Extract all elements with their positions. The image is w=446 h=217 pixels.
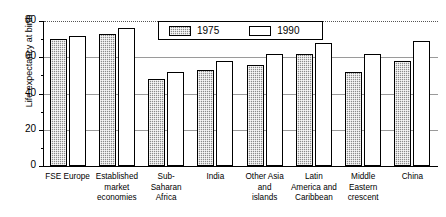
chart-legend: 1975 1990 — [158, 21, 323, 40]
y-axis-label-0: 0 — [8, 160, 36, 170]
x-axis-label: FSE Europe — [43, 172, 92, 204]
bar-group — [191, 21, 240, 166]
x-axis-label-line: Established — [93, 172, 140, 183]
bar-1975 — [296, 54, 313, 166]
y-axis-label-20: 20 — [8, 124, 36, 134]
bar-1990 — [167, 72, 184, 166]
y-axis-label-80: 80 — [8, 15, 36, 25]
bar-group — [339, 21, 388, 166]
bar-1975 — [148, 79, 165, 166]
x-axis-label-line: islands — [241, 193, 288, 204]
bar-1990 — [118, 28, 135, 166]
bar-group — [142, 21, 191, 166]
legend-swatch-1990 — [249, 26, 271, 36]
x-axis-label-line: market — [93, 183, 140, 194]
x-axis-label-line: Sub- — [143, 172, 190, 183]
x-axis-label-line: FSE Europe — [44, 172, 91, 183]
x-axis-label-line: Africa — [143, 193, 190, 204]
legend-item-1975: 1975 — [169, 25, 219, 36]
bar-group — [240, 21, 289, 166]
x-axis-label-line: economies — [93, 193, 140, 204]
y-axis-label-60: 60 — [8, 51, 36, 61]
bar-1975 — [197, 70, 214, 166]
bar-group — [43, 21, 92, 166]
x-axis-label-line: Latin — [290, 172, 337, 183]
x-axis-tick-labels: FSE EuropeEstablishedmarketeconomiesSub-… — [43, 172, 437, 204]
x-axis-label: LatinAmerica andCaribbean — [289, 172, 338, 204]
bar-1975 — [345, 72, 362, 166]
legend-swatch-1975 — [169, 26, 191, 36]
bar-series-container — [43, 21, 437, 166]
x-axis-label: Establishedmarketeconomies — [92, 172, 141, 204]
bar-1975 — [394, 61, 411, 166]
x-axis-label: India — [191, 172, 240, 204]
bar-1975 — [99, 34, 116, 166]
bar-group — [289, 21, 338, 166]
x-axis-label-line: China — [389, 172, 436, 183]
bar-1990 — [315, 43, 332, 166]
bar-1990 — [266, 54, 283, 166]
x-axis-label-line: crescent — [340, 193, 387, 204]
bar-1990 — [413, 41, 430, 166]
legend-label-1975: 1975 — [197, 25, 219, 36]
bar-1990 — [69, 36, 86, 167]
y-axis-tick-0 — [39, 166, 44, 167]
bar-1990 — [216, 61, 233, 166]
bar-group — [92, 21, 141, 166]
x-axis-label-line: Saharan — [143, 183, 190, 194]
x-axis-label: China — [388, 172, 437, 204]
x-axis-label: Other Asiaandislands — [240, 172, 289, 204]
x-axis-label: Sub-SaharanAfrica — [142, 172, 191, 204]
bar-chart: Life expectancy at birth 020406080 1975 … — [0, 0, 446, 217]
bar-group — [388, 21, 437, 166]
y-axis-label-40: 40 — [8, 88, 36, 98]
x-axis-label-line: Eastern — [340, 183, 387, 194]
x-axis-label-line: Caribbean — [290, 193, 337, 204]
x-axis-label-line: America and — [290, 183, 337, 194]
legend-item-1990: 1990 — [249, 25, 299, 36]
bar-1990 — [364, 54, 381, 166]
bar-1975 — [247, 65, 264, 167]
x-axis-label-line: India — [192, 172, 239, 183]
x-axis-label: MiddleEasterncrescent — [339, 172, 388, 204]
x-axis-label-line: Other Asia — [241, 172, 288, 183]
legend-label-1990: 1990 — [277, 25, 299, 36]
x-axis-label-line: and — [241, 183, 288, 194]
bar-1975 — [50, 39, 67, 166]
x-axis-label-line: Middle — [340, 172, 387, 183]
